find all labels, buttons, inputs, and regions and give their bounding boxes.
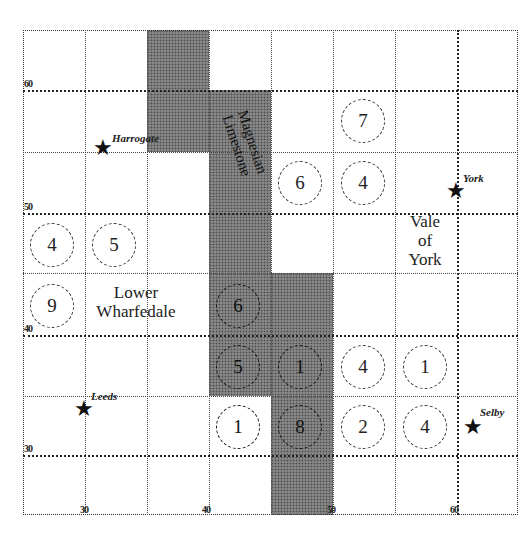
town-label-selby: Selby bbox=[480, 406, 504, 418]
grid-hline bbox=[23, 90, 518, 92]
town-label-leeds: Leeds bbox=[91, 390, 117, 402]
y-axis-label: 60 bbox=[24, 78, 32, 89]
grid-hline bbox=[23, 455, 518, 457]
town-label-york: York bbox=[463, 172, 484, 184]
star-icon: ★ bbox=[93, 137, 113, 159]
map-canvas: 60 50 40 30 30 40 50 60 Magnesian Limest… bbox=[0, 0, 532, 534]
site-circle: 6 bbox=[278, 161, 322, 205]
site-circle: 1 bbox=[403, 345, 447, 389]
x-axis-label: 30 bbox=[80, 504, 88, 515]
site-circle: 4 bbox=[30, 223, 74, 267]
site-circle: 1 bbox=[216, 405, 260, 449]
site-circle: 5 bbox=[92, 223, 136, 267]
site-circle: 8 bbox=[278, 405, 322, 449]
site-circle: 7 bbox=[341, 99, 385, 143]
site-circle: 6 bbox=[216, 284, 260, 328]
x-axis-label: 60 bbox=[450, 504, 458, 515]
site-circle: 2 bbox=[341, 405, 385, 449]
site-circle: 4 bbox=[341, 161, 385, 205]
x-axis-label: 40 bbox=[202, 504, 210, 515]
grid-hline bbox=[23, 335, 518, 337]
site-circle: 4 bbox=[341, 345, 385, 389]
town-label-harrogate: Harrogate bbox=[112, 132, 159, 144]
lower-wharfedale-label: Lower Wharfedale bbox=[86, 283, 186, 321]
x-axis-label: 50 bbox=[327, 504, 335, 515]
y-axis-label: 40 bbox=[24, 323, 32, 334]
star-icon: ★ bbox=[463, 416, 483, 438]
y-axis-label: 30 bbox=[24, 443, 32, 454]
site-circle: 4 bbox=[403, 405, 447, 449]
site-circle: 1 bbox=[278, 345, 322, 389]
y-axis-label: 50 bbox=[24, 201, 32, 212]
site-circle: 5 bbox=[216, 345, 260, 389]
grid-hline bbox=[23, 273, 518, 274]
vale-of-york-label: Vale of York bbox=[398, 212, 452, 269]
site-circle: 9 bbox=[30, 284, 74, 328]
